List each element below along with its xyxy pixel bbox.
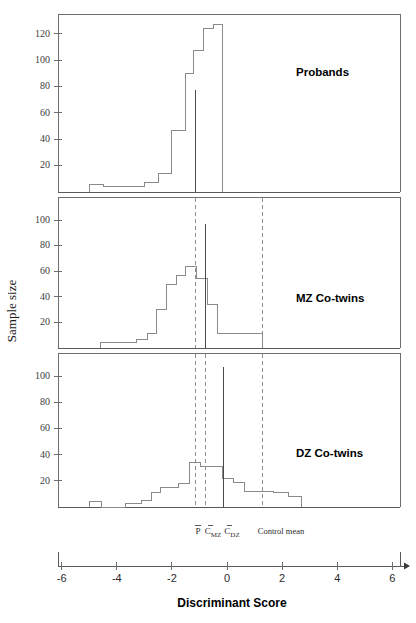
marker-label-dz_mean: CDZ (224, 526, 239, 539)
panel-2: 20406080100MZ Co-twins (35, 197, 400, 348)
marker-label-main: P (195, 526, 200, 536)
y-axis-title: Sample size (4, 280, 19, 343)
x-tick-label: 4 (334, 572, 340, 584)
y-tick-label: 20 (40, 159, 50, 170)
marker-label-mz_mean: CMZ (205, 526, 222, 539)
marker-label-sub: DZ (230, 531, 239, 539)
y-tick-label: 60 (40, 107, 50, 118)
x-axis-title: Discriminant Score (177, 596, 287, 610)
y-tick-label: 80 (40, 80, 50, 91)
y-tick-label: 20 (40, 475, 50, 486)
panels-layer: 20406080100120Probands20406080100MZ Co-t… (35, 14, 400, 507)
y-tick-label: 60 (40, 265, 50, 276)
y-tick-label: 80 (40, 239, 50, 250)
panel-3: 20406080100DZ Co-twins (35, 353, 400, 507)
x-axis-arrow-icon (404, 563, 410, 570)
x-tick-label: 0 (224, 572, 230, 584)
panel-frame (58, 353, 400, 507)
figure-container: 20406080100120Probands20406080100MZ Co-t… (0, 0, 416, 623)
y-tick-label: 120 (35, 28, 50, 39)
x-tick-label: 2 (279, 572, 285, 584)
discriminant-score-histograms: 20406080100120Probands20406080100MZ Co-t… (0, 0, 416, 623)
y-tick-label: 80 (40, 396, 50, 407)
histogram-outline (89, 25, 223, 192)
y-tick-label: 20 (40, 316, 50, 327)
panel-1: 20406080100120Probands (35, 14, 400, 192)
histogram-outline (100, 266, 263, 348)
x-tick-label: -4 (112, 572, 122, 584)
panel-title: Probands (296, 66, 349, 78)
x-tick-label: 6 (389, 572, 395, 584)
x-tick-label: -2 (167, 572, 177, 584)
panel-title: DZ Co-twins (296, 447, 363, 459)
y-tick-label: 100 (35, 214, 50, 225)
panel-frame (58, 14, 400, 192)
x-axis-line (58, 552, 404, 566)
marker-label-sub: MZ (211, 531, 222, 539)
x-axis: -6-4-20246 (57, 552, 410, 584)
marker-label-control_mean: Control mean (258, 526, 305, 536)
y-tick-label: 100 (35, 54, 50, 65)
marker-label-proband_mean: P (195, 526, 200, 536)
x-tick-label: -6 (57, 572, 67, 584)
mean-marker-labels: PCMZCDZControl mean (195, 525, 305, 539)
y-tick-label: 40 (40, 133, 50, 144)
panel-title: MZ Co-twins (296, 292, 364, 304)
y-tick-label: 40 (40, 291, 50, 302)
y-tick-label: 60 (40, 422, 50, 433)
y-tick-label: 100 (35, 370, 50, 381)
panel-frame (58, 197, 400, 348)
y-tick-label: 40 (40, 449, 50, 460)
